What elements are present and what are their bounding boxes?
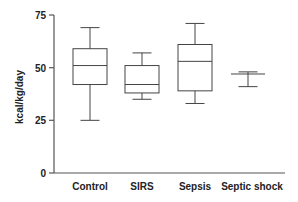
y-tick-50: 50: [35, 63, 47, 74]
box-sepsis: [178, 23, 212, 103]
box-septic-shock: [231, 72, 265, 87]
y-tick-25: 25: [35, 115, 47, 126]
x-label-sepsis: Sepsis: [179, 181, 212, 192]
box-sirs: [125, 53, 159, 99]
y-tick-labels: 75 50 25 0: [35, 10, 47, 179]
x-label-control: Control: [72, 181, 108, 192]
x-tick-labels: Control SIRS Sepsis Septic shock: [72, 181, 283, 192]
box-plot-chart: 75 50 25 0 kcal/kg/day Control SIRS Seps…: [0, 0, 298, 202]
y-axis-title: kcal/kg/day: [14, 70, 25, 124]
y-ticks: [49, 15, 54, 173]
x-label-sirs: SIRS: [130, 181, 154, 192]
boxes-group: [73, 23, 265, 120]
x-label-septic-shock: Septic shock: [221, 181, 283, 192]
box-control: [73, 28, 107, 121]
y-tick-0: 0: [40, 168, 46, 179]
y-tick-75: 75: [35, 10, 47, 21]
